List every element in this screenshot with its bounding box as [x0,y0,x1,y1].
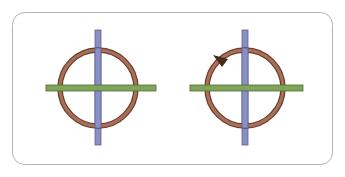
horizontal-rod [46,85,156,91]
diagram-canvas [0,0,345,177]
vertical-rod-front [242,48,248,88]
vertical-rod-over [242,91,248,128]
vertical-rod-over [95,91,101,128]
horizontal-rod [190,85,303,91]
vertical-rod-front [95,48,101,88]
